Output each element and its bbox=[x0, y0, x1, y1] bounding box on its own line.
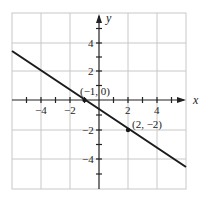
y-axis-label: y bbox=[105, 11, 112, 25]
x-tick-label: 2 bbox=[125, 104, 131, 116]
y-tick-label: −2 bbox=[82, 124, 94, 136]
y-axis bbox=[96, 16, 102, 189]
data-point bbox=[82, 98, 86, 102]
data-point bbox=[126, 128, 130, 132]
x-tick-label: 4 bbox=[154, 104, 160, 116]
y-axis-arrow-icon bbox=[96, 14, 102, 23]
y-tick-label: 2 bbox=[88, 65, 94, 77]
point-label: (2, −2) bbox=[132, 118, 162, 131]
x-axis bbox=[12, 97, 184, 103]
x-axis-label: x bbox=[192, 93, 199, 107]
y-tick-label: −4 bbox=[82, 153, 94, 165]
x-tick-label: −2 bbox=[64, 104, 76, 116]
y-tick-label: 4 bbox=[88, 37, 94, 49]
x-axis-arrow-icon bbox=[177, 97, 186, 103]
point-label: (−1, 0) bbox=[80, 85, 110, 98]
x-tick-label: −4 bbox=[35, 104, 47, 116]
line-graph: x y −4 −2 2 4 4 2 −2 −4 (−1, 0) (2, −2) bbox=[0, 0, 205, 202]
